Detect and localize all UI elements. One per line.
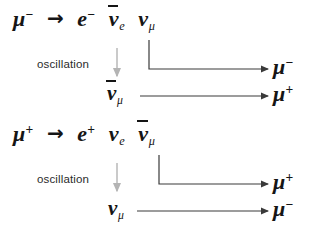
parent-antimuon-charge: + [26,122,34,137]
product-electron-charge: − [87,7,95,22]
result-muon-minus-block1: μ− [273,56,293,78]
oscillation-label-block1: oscillation [37,58,89,70]
product-neutrino-e-subscript: e [119,134,124,148]
product-neutrino-mu-symbol: ν [138,8,148,30]
product-positron-charge: + [87,122,95,137]
parent-antimuon-symbol: μ+ [13,123,33,145]
parent-muon-charge: − [26,7,34,22]
elbow-connector-block2 [159,155,268,184]
result-muon-plus-block2: μ+ [273,171,293,193]
result-muon-plus-charge-2: + [286,170,294,185]
source-antineutrino-mu-subscript: μ [117,94,123,107]
result-muon-plus-charge: + [286,82,294,97]
product-neutrino-mu-subscript: μ [149,19,155,33]
result-muon-minus-block2: μ− [273,198,293,220]
result-muon-minus-charge: − [286,55,294,70]
result-muon-plus-block1: μ+ [273,83,293,105]
elbow-connector-block1 [149,40,268,69]
muon-decay-oscillation-diagram: μ−→e−νeνμ oscillation μ− νμ μ+ μ+→e+νeνμ… [0,0,309,237]
source-neutrino-mu-block2: νμ [108,198,124,222]
product-antineutrino-e-symbol: ν [109,8,119,30]
equation-muon-plus-decay: μ+→e+νeνμ [13,123,155,147]
decay-arrow-icon-2: → [47,121,64,145]
oscillation-label-block2: oscillation [37,173,89,185]
product-positron-symbol: e+ [77,123,95,145]
source-antineutrino-mu-block1: νμ [107,83,123,107]
product-antineutrino-e-subscript: e [119,19,124,33]
source-neutrino-mu-subscript: μ [118,209,124,222]
product-neutrino-e-symbol: ν [109,123,119,145]
product-antineutrino-mu-subscript: μ [149,134,155,148]
parent-muon-symbol: μ− [13,8,33,30]
product-antineutrino-mu-symbol: ν [138,123,148,145]
result-muon-minus-charge-2: − [286,197,294,212]
connector-lines-layer [0,0,309,237]
product-electron-symbol: e− [77,8,95,30]
equation-muon-minus-decay: μ−→e−νeνμ [13,8,155,32]
decay-arrow-icon: → [47,6,64,30]
